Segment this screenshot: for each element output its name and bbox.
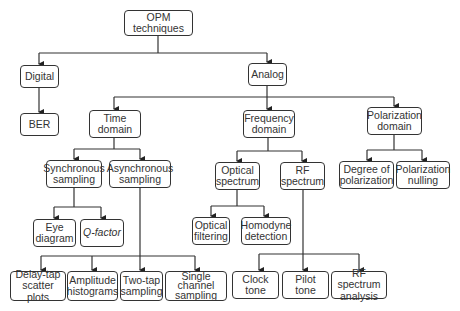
node-clock-tone: Clock tone xyxy=(232,271,279,299)
node-optical-spectrum: Optical spectrum xyxy=(215,162,260,190)
node-label: BER xyxy=(29,119,51,131)
node-label: Q-factor xyxy=(83,227,121,239)
node-rf-spectrum: RF spectrum xyxy=(280,162,325,190)
node-label: Optical filtering xyxy=(194,220,228,243)
node-ber: BER xyxy=(20,113,59,136)
node-label: Optical spectrum xyxy=(216,165,259,188)
node-label: Clock tone xyxy=(234,274,277,297)
node-label: Synchronous sampling xyxy=(43,163,104,186)
node-label: Two-tap sampling xyxy=(120,275,162,298)
node-label: Eye diagram xyxy=(36,222,74,245)
node-opm-techniques: OPM techniques xyxy=(124,10,193,36)
node-rf-spectrum-analysis: RF spectrum analysis xyxy=(331,271,387,299)
node-label: Polarization nulling xyxy=(396,164,451,187)
node-asynchronous-sampling: Asynchronous sampling xyxy=(109,160,171,188)
node-label: Digital xyxy=(25,71,54,83)
node-label: Pilot tone xyxy=(284,274,327,297)
node-label: Degree of polarization xyxy=(340,164,394,187)
node-q-factor: Q-factor xyxy=(80,219,124,247)
node-single-channel-sampling: Single channel sampling xyxy=(165,271,227,301)
node-polarization-nulling: Polarization nulling xyxy=(396,161,450,189)
node-label: Homodyne detection xyxy=(241,220,292,243)
node-label: Delay-tap scatter plots xyxy=(12,269,64,304)
node-pilot-tone: Pilot tone xyxy=(282,271,329,299)
node-optical-filtering: Optical filtering xyxy=(192,217,230,245)
node-label: Single channel sampling xyxy=(175,272,217,301)
node-time-domain: Time domain xyxy=(89,110,141,138)
node-eye-diagram: Eye diagram xyxy=(33,219,76,247)
node-synchronous-sampling: Synchronous sampling xyxy=(46,160,102,188)
node-label: Amplitude histograms xyxy=(67,275,118,298)
node-digital: Digital xyxy=(20,65,59,88)
node-polarization-domain: Polarization domain xyxy=(367,107,422,135)
node-amplitude-histograms: Amplitude histograms xyxy=(67,271,118,301)
node-label: Polarization domain xyxy=(367,110,422,133)
node-homodyne-detection: Homodyne detection xyxy=(241,217,291,245)
node-degree-of-polarization: Degree of polarization xyxy=(339,161,394,189)
node-label: Time domain xyxy=(98,113,132,136)
node-frequency-domain: Frequency domain xyxy=(243,110,295,138)
connector-lines xyxy=(0,0,460,311)
node-two-tap-sampling: Two-tap sampling xyxy=(120,271,163,301)
node-label: Frequency domain xyxy=(244,113,294,136)
node-label: OPM techniques xyxy=(133,12,184,35)
node-analog: Analog xyxy=(248,63,287,86)
node-label: Analog xyxy=(251,69,284,81)
node-delay-tap-scatter-plots: Delay-tap scatter plots xyxy=(10,271,66,301)
node-label: Asynchronous sampling xyxy=(107,163,174,186)
node-label: RF spectrum analysis xyxy=(333,268,385,303)
node-label: RF spectrum xyxy=(281,165,324,188)
